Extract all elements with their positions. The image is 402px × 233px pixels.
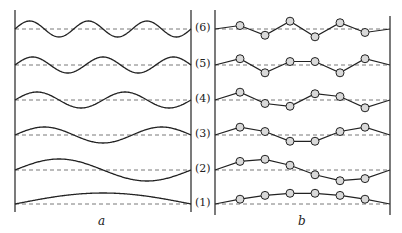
panel-b-label: b xyxy=(298,214,306,228)
bead-mass-icon xyxy=(236,55,244,63)
panel-b-beaded-string xyxy=(215,10,390,215)
bead-mass-icon xyxy=(336,93,344,101)
bead-mass-icon xyxy=(261,31,269,39)
bead-mass-icon xyxy=(311,137,319,145)
bead-mass-icon xyxy=(261,191,269,199)
bead-mass-icon xyxy=(361,123,369,131)
mode-label-3: (3) xyxy=(195,127,211,140)
bead-mass-icon xyxy=(236,157,244,165)
mode-label-4: (4) xyxy=(195,92,211,105)
bead-mass-icon xyxy=(236,123,244,131)
bead-mass-icon xyxy=(261,155,269,163)
bead-mass-icon xyxy=(286,58,294,66)
mode-label-6: (6) xyxy=(195,21,211,34)
bead-mass-icon xyxy=(261,69,269,77)
bead-mass-icon xyxy=(361,175,369,183)
mode-label-1: (1) xyxy=(195,196,211,209)
standing-wave-mode-1 xyxy=(15,193,191,204)
bead-mass-icon xyxy=(286,17,294,25)
bead-mass-icon xyxy=(336,69,344,77)
panel-a-continuous-string xyxy=(15,10,191,212)
bead-mass-icon xyxy=(261,128,269,136)
bead-mass-icon xyxy=(236,195,244,203)
bead-mass-icon xyxy=(361,28,369,36)
bead-mass-icon xyxy=(311,171,319,179)
bead-mass-icon xyxy=(361,195,369,203)
bead-mass-icon xyxy=(261,99,269,107)
bead-mass-icon xyxy=(361,104,369,112)
bead-mass-icon xyxy=(311,90,319,98)
bead-mass-icon xyxy=(361,55,369,63)
bead-mass-icon xyxy=(286,137,294,145)
panel-a-label: a xyxy=(98,214,105,228)
bead-mass-icon xyxy=(311,189,319,197)
bead-mass-icon xyxy=(311,33,319,41)
bead-mass-icon xyxy=(336,128,344,136)
bead-mass-icon xyxy=(236,22,244,30)
bead-mass-icon xyxy=(236,88,244,96)
bead-mass-icon xyxy=(286,102,294,110)
bead-mass-icon xyxy=(286,189,294,197)
mode-label-2: (2) xyxy=(195,162,211,175)
bead-mass-icon xyxy=(336,191,344,199)
bead-mass-icon xyxy=(336,19,344,27)
bead-mass-icon xyxy=(286,161,294,169)
mode-label-5: (5) xyxy=(195,57,211,70)
bead-mass-icon xyxy=(336,177,344,185)
bead-mass-icon xyxy=(311,58,319,66)
